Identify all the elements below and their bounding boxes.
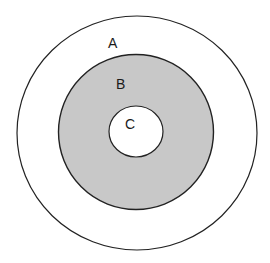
concentric-circles-diagram: A B C: [0, 0, 270, 263]
region-a-label: A: [108, 35, 118, 51]
region-b-label: B: [116, 76, 125, 92]
region-c-label: C: [125, 116, 135, 132]
region-c-circle: [109, 106, 163, 157]
